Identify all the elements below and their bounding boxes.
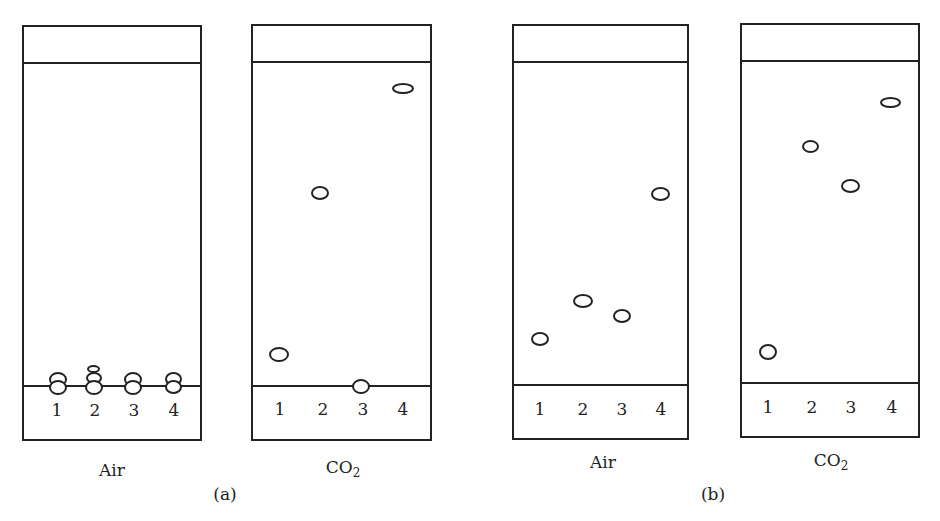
spot (392, 83, 414, 94)
tlc-plate-a-co2: 1 2 3 4 (251, 24, 432, 441)
lane-label: 3 (358, 399, 369, 419)
spot (49, 380, 67, 395)
spot (802, 140, 819, 153)
origin-line (742, 382, 918, 384)
lane-label: 2 (318, 399, 329, 419)
spot (841, 179, 860, 193)
spot (165, 380, 182, 394)
tlc-plate-b-co2: 1 2 3 4 (740, 23, 920, 438)
spot (311, 186, 329, 200)
spot (352, 379, 370, 394)
spot (269, 347, 289, 362)
atmosphere-label: Air (590, 452, 616, 472)
lane-label: 1 (52, 400, 63, 420)
co2-text: CO (326, 457, 353, 477)
atmosphere-label: CO2 (814, 450, 849, 473)
spot (124, 380, 142, 395)
lane-label: 4 (887, 397, 898, 417)
atmosphere-label: Air (99, 460, 125, 480)
co2-subscript: 2 (841, 459, 849, 473)
solvent-front-line (514, 61, 687, 63)
lane-label: 1 (535, 399, 546, 419)
solvent-front-line (24, 62, 200, 64)
lane-label: 4 (169, 400, 180, 420)
lane-label: 4 (398, 399, 409, 419)
lane-label: 3 (129, 400, 140, 420)
solvent-front-line (742, 60, 918, 62)
panel-label-b: (b) (701, 484, 725, 504)
tlc-plate-a-air: 1 2 3 4 (22, 25, 202, 441)
spot (880, 97, 901, 108)
spot (85, 380, 103, 395)
atmosphere-label: CO2 (326, 457, 361, 480)
lane-label: 3 (617, 399, 628, 419)
spot (651, 187, 670, 201)
spot (531, 332, 549, 346)
lane-label: 1 (275, 399, 286, 419)
origin-line (253, 385, 430, 387)
spot (759, 344, 777, 360)
co2-text: CO (814, 450, 841, 470)
lane-label: 1 (763, 397, 774, 417)
lane-label: 4 (656, 399, 667, 419)
lane-label: 2 (807, 397, 818, 417)
spot (613, 309, 631, 323)
tlc-plate-b-air: 1 2 3 4 (512, 24, 689, 440)
lane-label: 3 (846, 397, 857, 417)
spot (573, 294, 593, 308)
panel-label-a: (a) (213, 484, 236, 504)
lane-label: 2 (578, 399, 589, 419)
lane-label: 2 (90, 400, 101, 420)
solvent-front-line (253, 61, 430, 63)
origin-line (514, 384, 687, 386)
co2-subscript: 2 (353, 466, 361, 480)
